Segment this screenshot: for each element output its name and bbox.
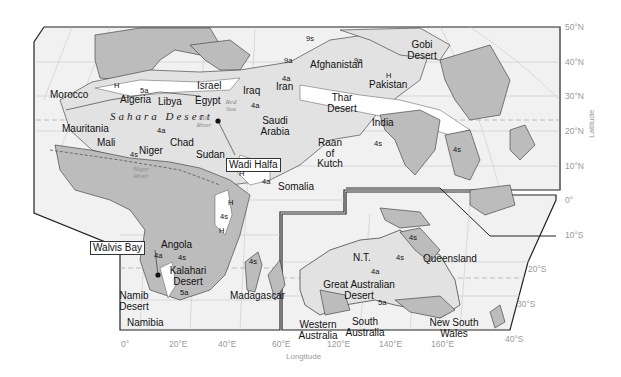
label-queensland: Queensland (423, 254, 477, 264)
label-western-australia: Western Australia (295, 320, 341, 341)
label-mali: Mali (97, 138, 115, 148)
label-israel: Israel (197, 81, 221, 91)
zone-4s-niger: 4s (130, 151, 138, 159)
label-sudan: Sudan (196, 150, 225, 160)
label-iran: Iran (276, 82, 293, 92)
zone-4s-indochina: 4s (453, 146, 461, 154)
zone-4a-horn: 4a (262, 178, 270, 186)
lon-tick-20e: 20°E (169, 339, 188, 349)
lon-tick-40e: 40°E (218, 339, 237, 349)
lon-tick-120e: 120°E (327, 339, 350, 349)
zone-h-eastafrica-1: H (228, 199, 233, 207)
zone-5a-kalahari: 5a (180, 289, 188, 297)
zone-h-eastafrica-2: H (219, 227, 224, 235)
label-gobi-desert: Gobi Desert (405, 40, 439, 61)
label-south-australia: South Australia (342, 317, 388, 338)
label-niger-river: Niger River (131, 166, 151, 181)
zone-4s-india: 4s (374, 140, 382, 148)
label-egypt: Egypt (195, 96, 221, 106)
callout-walvis-bay: Walvis Bay (90, 241, 145, 255)
lon-tick-160e: 160°E (431, 339, 454, 349)
zone-4s-madagascar: 4s (249, 258, 257, 266)
label-iraq: Iraq (243, 86, 260, 96)
label-new-south-wales: New South Wales (427, 318, 481, 339)
label-mauritania: Mauritania (62, 124, 109, 134)
label-india: India (372, 118, 394, 128)
zone-5a-australia: 5a (378, 299, 386, 307)
label-raan-of-kutch: Raan of Kutch (313, 138, 347, 170)
lat-tick-30n: 30°N (565, 91, 584, 101)
lon-tick-60e: 60°E (272, 339, 291, 349)
lat-tick-30s: 30°S (517, 299, 536, 309)
zone-9a-east: 9a (354, 57, 362, 65)
lat-tick-50n: 50°N (565, 22, 584, 32)
zone-h-pakistan: H (386, 72, 391, 80)
latitude-axis-title: Latitude (587, 110, 596, 138)
zone-4a-sahara: 4a (157, 127, 165, 135)
lat-tick-40n: 40°N (565, 57, 584, 67)
label-somalia: Somalia (278, 182, 314, 192)
label-chad: Chad (170, 138, 194, 148)
zone-4s-queensland: 4s (396, 254, 404, 262)
zone-4a-angola: 4a (154, 252, 162, 260)
label-kalahari-desert: Kalahari Desert (167, 266, 209, 287)
label-great-australian-desert: Great Australian Desert (320, 280, 398, 301)
zone-4s-png: 4s (409, 234, 417, 242)
lat-tick-10s: 10°S (565, 230, 584, 240)
label-nt: N.T. (353, 253, 371, 263)
label-namibia: Namibia (127, 318, 164, 328)
lat-tick-0: 0° (565, 195, 573, 205)
callout-wadi-halfa: Wadi Halfa (226, 158, 281, 172)
label-niger: Niger (139, 146, 163, 156)
lat-tick-10n: 10°N (565, 161, 584, 171)
longitude-axis-title: Longitude (286, 352, 321, 361)
zone-4s-angola: 4s (178, 254, 186, 262)
zone-h-sudan: H (239, 170, 244, 178)
zone-4a-australia: 4a (371, 268, 379, 276)
zone-5a-algeria: 5a (140, 87, 148, 95)
label-pakistan: Pakistan (369, 80, 407, 90)
lat-tick-20s: 20°S (528, 264, 547, 274)
zone-4a-arabia: 4a (251, 102, 259, 110)
label-madagascar: Madagascar (230, 291, 285, 301)
zone-9a-west: 9a (284, 57, 292, 65)
label-angola: Angola (161, 240, 192, 250)
label-namib-desert: Namib Desert (118, 291, 150, 312)
zone-h-algeria: H (114, 82, 119, 90)
zone-4a-iran: 4a (282, 75, 290, 83)
label-red-sea: Red Sea (222, 99, 240, 114)
lon-tick-140e: 140°E (379, 339, 402, 349)
label-algeria: Algeria (120, 95, 151, 105)
lat-tick-40s: 40°S (505, 334, 524, 344)
lat-tick-20n: 20°N (565, 126, 584, 136)
label-thar-desert: Thar Desert (327, 93, 357, 114)
zone-4s-eastafrica: 4s (220, 213, 228, 221)
label-libya: Libya (158, 97, 182, 107)
label-nile-river: Nile River (195, 115, 213, 130)
zone-9s: 9s (306, 35, 314, 43)
lon-tick-0: 0° (121, 339, 129, 349)
label-morocco: Morocco (50, 90, 88, 100)
label-saudi-arabia: Saudi Arabia (256, 116, 294, 137)
